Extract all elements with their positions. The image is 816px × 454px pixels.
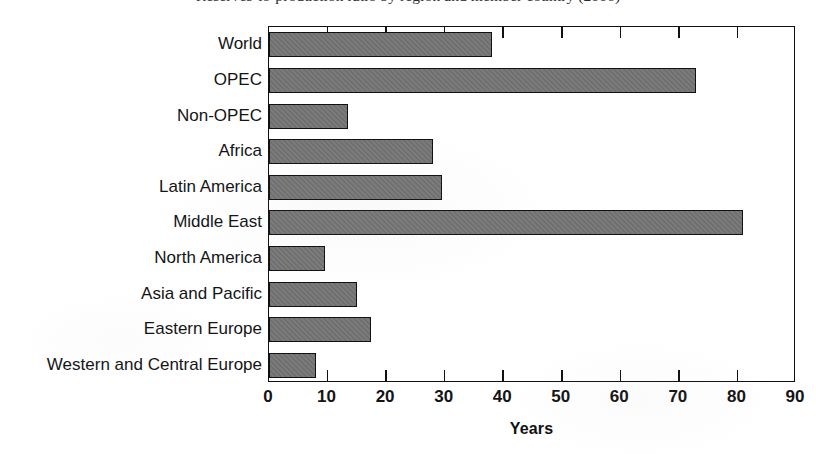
y-axis-label: Middle East [173, 213, 262, 230]
x-tick-label: 20 [376, 388, 395, 405]
x-tick-label: 90 [786, 388, 805, 405]
bar [269, 317, 371, 342]
y-axis-label: World [218, 35, 262, 52]
x-tick-label: 0 [263, 388, 272, 405]
x-tick-label: 10 [317, 388, 336, 405]
bar [269, 104, 348, 129]
bar [269, 175, 442, 200]
y-axis-label: Non-OPEC [177, 107, 262, 124]
bar-chart: WorldOPECNon-OPECAfricaLatin AmericaMidd… [0, 0, 816, 454]
y-axis-label: Africa [219, 142, 262, 159]
y-axis-label: OPEC [214, 71, 262, 88]
y-axis-label: Asia and Pacific [141, 285, 262, 302]
plot-frame [268, 26, 795, 382]
bar [269, 246, 325, 271]
x-axis-title: Years [268, 420, 795, 438]
y-axis-label: Latin America [159, 178, 262, 195]
y-axis-category-labels: WorldOPECNon-OPECAfricaLatin AmericaMidd… [0, 26, 262, 382]
x-tick-label: 40 [493, 388, 512, 405]
x-tick-label: 60 [610, 388, 629, 405]
x-tick-label: 30 [434, 388, 453, 405]
bar [269, 68, 696, 93]
x-tick-label: 80 [727, 388, 746, 405]
bars-layer [269, 27, 794, 381]
bar [269, 210, 743, 235]
bar [269, 139, 433, 164]
bar [269, 282, 357, 307]
bar [269, 32, 492, 57]
y-axis-label: North America [154, 249, 262, 266]
bar [269, 353, 316, 378]
y-axis-label: Western and Central Europe [47, 356, 262, 373]
x-tick-label: 50 [551, 388, 570, 405]
x-tick-label: 70 [668, 388, 687, 405]
y-axis-label: Eastern Europe [144, 320, 262, 337]
